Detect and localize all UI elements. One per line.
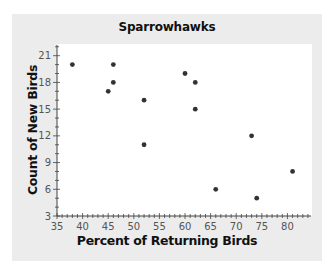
y-tick-label: 12	[38, 130, 51, 141]
x-tick-label: 40	[76, 221, 89, 232]
scatter-plot: 3540455055606570758036912151821	[0, 0, 334, 272]
data-point	[213, 187, 218, 192]
data-point	[106, 89, 111, 94]
x-tick-label: 65	[204, 221, 217, 232]
y-tick-label: 21	[38, 50, 51, 61]
y-tick-label: 18	[38, 77, 51, 88]
data-point	[111, 62, 116, 67]
y-tick-label: 15	[38, 104, 51, 115]
x-tick-label: 50	[127, 221, 140, 232]
data-point	[111, 80, 116, 85]
data-point	[70, 62, 75, 67]
data-point	[290, 169, 295, 174]
x-tick-label: 70	[230, 221, 243, 232]
data-point	[142, 98, 147, 103]
x-tick-label: 60	[179, 221, 192, 232]
y-tick-label: 3	[45, 211, 51, 222]
data-point	[254, 196, 259, 201]
y-tick-label: 9	[45, 157, 51, 168]
axes: 3540455055606570758036912151821	[38, 45, 311, 232]
y-tick-label: 6	[45, 184, 51, 195]
data-point	[249, 133, 254, 138]
x-tick-label: 35	[51, 221, 64, 232]
x-tick-label: 45	[102, 221, 115, 232]
data-point	[142, 142, 147, 147]
x-axis-label: Percent of Returning Birds	[0, 233, 334, 248]
x-tick-label: 75	[255, 221, 268, 232]
y-axis-label: Count of New Birds	[25, 65, 40, 195]
data-point	[183, 71, 188, 76]
data-points	[70, 62, 295, 200]
x-tick-label: 80	[281, 221, 294, 232]
x-tick-label: 55	[153, 221, 166, 232]
data-point	[193, 80, 198, 85]
data-point	[193, 107, 198, 112]
